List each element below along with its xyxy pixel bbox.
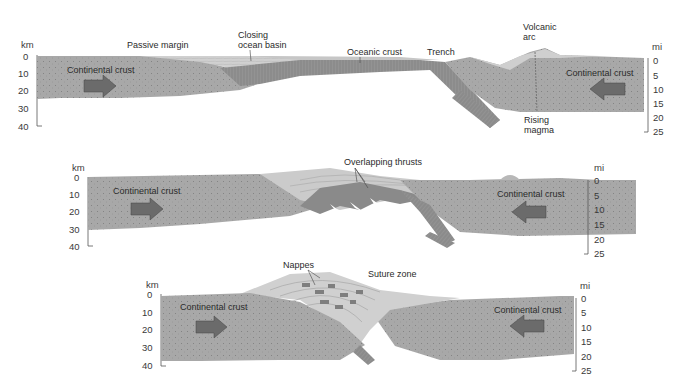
svg-text:ocean basin: ocean basin <box>238 40 287 50</box>
svg-text:magma: magma <box>524 125 554 135</box>
label-continental-crust-right: Continental crust <box>566 68 634 78</box>
svg-text:15: 15 <box>581 336 592 347</box>
svg-text:30: 30 <box>69 224 80 235</box>
panel-suture: km 0 10 20 30 40 Cont <box>142 260 592 376</box>
svg-text:5: 5 <box>581 307 586 318</box>
svg-text:10: 10 <box>69 189 80 200</box>
svg-text:5: 5 <box>594 190 599 201</box>
svg-text:40: 40 <box>142 360 153 371</box>
svg-text:25: 25 <box>653 126 664 137</box>
svg-text:30: 30 <box>18 103 29 114</box>
label-suture-zone: Suture zone <box>368 269 417 279</box>
mi-axis: mi 0 5 10 15 20 25 <box>572 280 592 376</box>
svg-text:0: 0 <box>594 175 599 186</box>
svg-text:0: 0 <box>653 55 658 66</box>
svg-text:5: 5 <box>653 70 658 81</box>
svg-text:arc: arc <box>523 32 536 42</box>
label-overlapping-thrusts: Overlapping thrusts <box>344 157 423 167</box>
label-closing-ocean-basin: Closing <box>238 30 268 40</box>
panel-initial-collision: km 0 10 20 30 40 Continental crust Conti… <box>69 157 636 259</box>
mi-axis: mi 0 5 10 15 20 25 <box>644 41 664 137</box>
label-continental-crust-left: Continental crust <box>180 302 248 312</box>
plate-collision-diagram: km 0 10 20 30 40 Continental crust Conti… <box>0 0 682 386</box>
svg-text:10: 10 <box>581 322 592 333</box>
svg-text:15: 15 <box>594 219 605 230</box>
panel-ocean-closing: km 0 10 20 30 40 Continental crust Conti… <box>18 22 664 137</box>
km-unit-label: km <box>21 39 34 50</box>
svg-text:20: 20 <box>18 85 29 96</box>
svg-text:0: 0 <box>74 172 79 183</box>
svg-text:10: 10 <box>18 68 29 79</box>
svg-text:0: 0 <box>147 289 152 300</box>
svg-text:20: 20 <box>142 324 153 335</box>
label-continental-crust-left: Continental crust <box>113 186 181 196</box>
label-trench: Trench <box>427 47 455 57</box>
svg-text:0: 0 <box>23 51 28 62</box>
label-oceanic-crust: Oceanic crust <box>347 47 403 57</box>
svg-text:20: 20 <box>594 234 605 245</box>
label-rising-magma: Rising <box>524 115 549 125</box>
svg-text:mi: mi <box>594 162 604 173</box>
svg-text:25: 25 <box>581 365 592 376</box>
svg-text:0: 0 <box>581 293 586 304</box>
svg-text:10: 10 <box>142 307 153 318</box>
svg-text:30: 30 <box>142 342 153 353</box>
svg-text:20: 20 <box>653 112 664 123</box>
svg-text:mi: mi <box>652 41 662 52</box>
label-continental-crust-right: Continental crust <box>497 189 565 199</box>
svg-text:25: 25 <box>594 248 605 259</box>
label-passive-margin: Passive margin <box>127 40 189 50</box>
svg-text:40: 40 <box>69 241 80 252</box>
svg-text:20: 20 <box>69 206 80 217</box>
svg-text:40: 40 <box>18 121 29 132</box>
svg-text:10: 10 <box>653 84 664 95</box>
svg-text:mi: mi <box>580 280 590 291</box>
label-continental-crust-left: Continental crust <box>67 65 135 75</box>
label-nappes: Nappes <box>283 260 315 270</box>
svg-text:10: 10 <box>594 204 605 215</box>
svg-text:15: 15 <box>653 98 664 109</box>
svg-text:20: 20 <box>581 351 592 362</box>
label-continental-crust-right: Continental crust <box>494 305 562 315</box>
label-volcanic-arc: Volcanic <box>523 22 557 32</box>
